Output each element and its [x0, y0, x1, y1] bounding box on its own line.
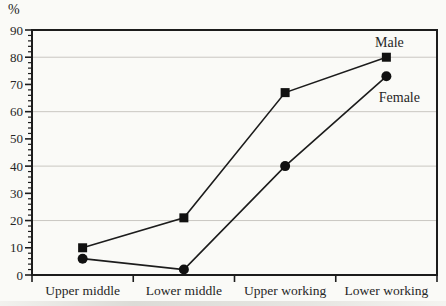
y-axis-tick-label: 0 [17, 268, 24, 283]
female-series-line [83, 76, 387, 269]
male-data-point-square [281, 88, 290, 97]
female-data-point-circle [381, 71, 391, 81]
male-data-point-square [179, 213, 188, 222]
y-axis-tick-label: 40 [10, 159, 23, 174]
male-series-label: Male [375, 35, 404, 50]
male-data-point-square [382, 53, 391, 62]
female-series-label: Female [379, 90, 420, 105]
x-axis-category-label: Upper middle [45, 283, 120, 298]
y-axis-tick-label: 10 [10, 240, 23, 255]
y-axis-tick-label: 90 [10, 23, 23, 38]
x-axis-category-label: Lower middle [146, 283, 222, 298]
y-axis-tick-label: 50 [10, 131, 23, 146]
y-axis-tick-label: 30 [10, 186, 23, 201]
x-axis-category-label: Lower working [345, 283, 429, 298]
plot-border [32, 30, 437, 275]
female-data-point-circle [78, 254, 88, 264]
y-axis-tick-label: 70 [10, 77, 23, 92]
chart-canvas: 0102030405060708090Upper middleLower mid… [0, 0, 446, 306]
x-axis-category-label: Upper working [244, 283, 326, 298]
female-data-point-circle [280, 161, 290, 171]
male-series-line [83, 57, 387, 248]
y-axis-tick-label: 20 [10, 213, 23, 228]
y-axis-tick-label: 80 [10, 50, 23, 65]
scanned-line-chart-figure: % 0102030405060708090Upper middleLower m… [0, 0, 446, 306]
female-data-point-circle [179, 265, 189, 275]
male-data-point-square [78, 243, 87, 252]
y-axis-tick-label: 60 [10, 104, 23, 119]
